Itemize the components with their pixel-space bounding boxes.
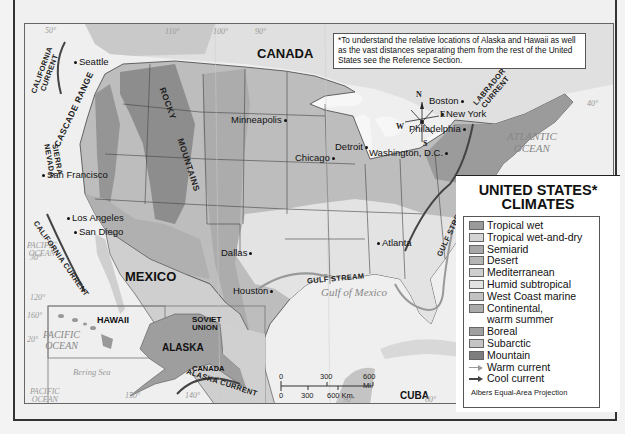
graticule-80: 80° (425, 395, 436, 404)
label-gulf-of-mexico: Gulf of Mexico (321, 287, 387, 299)
legend-item-continental-warm-summer: Continental,warm summer (469, 303, 594, 327)
compass-s: S (423, 139, 427, 148)
cool-current-arrow-icon (469, 373, 484, 382)
graticule-100: 100° (213, 27, 228, 36)
swatch-boreal (469, 327, 484, 336)
swatch-desert (469, 256, 484, 265)
city-new-york: New York (441, 108, 486, 119)
legend-item-subarctic: Subarctic (469, 338, 594, 350)
label-hawaii-pacific: PACIFICOCEAN (43, 330, 80, 351)
scale-km-300: 300 (301, 391, 314, 400)
graticule-140: 140° (185, 391, 200, 400)
city-minneapolis: Minneapolis (231, 114, 287, 125)
label-alaska: ALASKA (162, 342, 204, 353)
label-mexico: MEXICO (125, 269, 176, 284)
legend: UNITED STATES*CLIMATES Tropical wet Trop… (456, 175, 620, 412)
graticule-90: 90° (255, 27, 266, 36)
swatch-mediterranean (469, 268, 484, 277)
graticule-150: 150° (125, 391, 140, 400)
legend-box: Tropical wet Tropical wet-and-dry Semiar… (463, 216, 600, 408)
swatch-semiarid (469, 245, 484, 254)
graticule-50: 50° (45, 26, 56, 35)
compass-e: E (440, 110, 445, 119)
graticule-110: 110° (165, 27, 180, 36)
label-canada: CANADA (257, 46, 313, 61)
legend-title: UNITED STATES*CLIMATES (456, 183, 620, 211)
city-washington-dc: Washington, D.C. (369, 147, 448, 158)
warm-current-arrow-icon (469, 362, 484, 371)
scale-km-600: 600 Km. (327, 391, 355, 400)
reference-note: *To understand the relative locations of… (333, 33, 586, 69)
city-detroit: Detroit (335, 141, 368, 152)
legend-item-cool-current: Cool current (469, 373, 594, 385)
city-dallas: Dallas (221, 247, 252, 258)
compass-n: N (416, 90, 422, 99)
label-atlantic-ocean: ATLANTICOCEAN (507, 131, 557, 154)
scale-bar: 0 300 600 Mi. 0 300 600 Km. (277, 372, 387, 402)
city-atlanta: Atlanta (377, 237, 412, 248)
scale-mi-0: 0 (279, 372, 283, 381)
graticule-120: 120° (30, 293, 45, 302)
city-los-angeles: Los Angeles (67, 212, 124, 223)
city-chicago: Chicago (295, 152, 335, 163)
swatch-continental-warm-summer (469, 304, 484, 313)
city-houston: Houston (233, 285, 273, 296)
graticule-20: 20° (27, 335, 38, 344)
label-bering-sea: Bering Sea (73, 368, 111, 377)
city-seattle: Seattle (74, 56, 109, 67)
city-san-diego: San Diego (74, 226, 123, 237)
swatch-west-coast-marine (469, 292, 484, 301)
swatch-mountain (469, 351, 484, 360)
swatch-tropical-wet-and-dry (469, 233, 484, 242)
compass-rose-icon: N S E W (399, 96, 445, 148)
compass-w: W (396, 122, 404, 131)
swatch-tropical-wet (469, 221, 484, 230)
legend-item-tropical-wet-and-dry: Tropical wet-and-dry (469, 232, 594, 244)
legend-item-mountain: Mountain (469, 350, 594, 362)
swatch-humid-subtropical (469, 280, 484, 289)
label-soviet-union: SOVIETUNION (192, 316, 221, 332)
legend-item-humid-subtropical: Humid subtropical (469, 279, 594, 291)
label-alaska-pacific: PACIFICOCEAN (30, 388, 60, 404)
scale-mi-600: 600 Mi. (363, 372, 387, 390)
projection-label: Albers Equal-Area Projection (471, 388, 594, 397)
label-hawaii: HAWAII (97, 315, 129, 325)
graticule-30: 30° (30, 253, 41, 262)
scale-km-0: 0 (279, 391, 283, 400)
graticule-40: 40° (587, 99, 598, 108)
scale-mi-300: 300 (320, 372, 333, 381)
graticule-160: 160° (27, 311, 42, 320)
swatch-subarctic (469, 339, 484, 348)
